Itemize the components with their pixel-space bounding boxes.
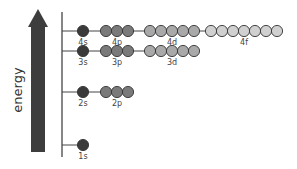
orbital-circle [77, 45, 88, 56]
orbital-4d: 4d [144, 25, 199, 47]
energy-axis-label: energy [10, 67, 25, 113]
orbital-energy-diagram: energy 4s4p4d4f3s3p3d2s2p1s [0, 0, 297, 169]
orbital-label: 3d [167, 58, 177, 67]
orbital-circle [122, 25, 133, 36]
orbital-2p: 2p [100, 86, 133, 108]
orbital-circle [144, 45, 155, 56]
energy-level: 4s4p4d4f [62, 25, 283, 47]
orbital-circle [100, 86, 111, 97]
orbital-circle [227, 25, 238, 36]
orbital-circle [77, 25, 88, 36]
orbital-4s: 4s [77, 25, 88, 47]
orbital-circle [271, 25, 282, 36]
orbital-circle [155, 25, 166, 36]
orbital-circle [249, 25, 260, 36]
orbital-circle [177, 45, 188, 56]
orbital-circle [122, 86, 133, 97]
orbital-3s: 3s [77, 45, 88, 67]
orbital-circle [77, 86, 88, 97]
orbital-circle [122, 45, 133, 56]
orbital-label: 3s [78, 58, 87, 67]
orbital-circle [177, 25, 188, 36]
orbital-circle [216, 25, 227, 36]
orbital-1s: 1s [77, 139, 88, 161]
orbital-circle [111, 86, 122, 97]
orbital-4p: 4p [100, 25, 133, 47]
orbital-label: 1s [78, 152, 87, 161]
orbital-circle [166, 25, 177, 36]
orbital-label: 2s [78, 99, 87, 108]
orbital-circle [188, 45, 199, 56]
orbital-circle [111, 25, 122, 36]
orbital-circle [77, 139, 88, 150]
energy-levels: 4s4p4d4f3s3p3d2s2p1s [62, 25, 283, 161]
energy-level: 3s3p3d [62, 45, 200, 67]
orbital-circle [100, 45, 111, 56]
orbital-circle [238, 25, 249, 36]
orbital-4f: 4f [205, 25, 282, 47]
orbital-circle [111, 45, 122, 56]
orbital-circle [260, 25, 271, 36]
orbital-3d: 3d [144, 45, 199, 67]
orbital-circle [100, 25, 111, 36]
energy-level: 2s2p [62, 86, 134, 108]
energy-arrow [28, 9, 48, 152]
orbital-label: 4f [240, 38, 248, 47]
orbital-circle [205, 25, 216, 36]
energy-level: 1s [62, 139, 89, 161]
orbital-label: 2p [112, 99, 122, 108]
orbital-label: 3p [112, 58, 122, 67]
orbital-circle [166, 45, 177, 56]
orbital-circle [144, 25, 155, 36]
orbital-2s: 2s [77, 86, 88, 108]
orbital-circle [155, 45, 166, 56]
orbital-circle [188, 25, 199, 36]
orbital-3p: 3p [100, 45, 133, 67]
